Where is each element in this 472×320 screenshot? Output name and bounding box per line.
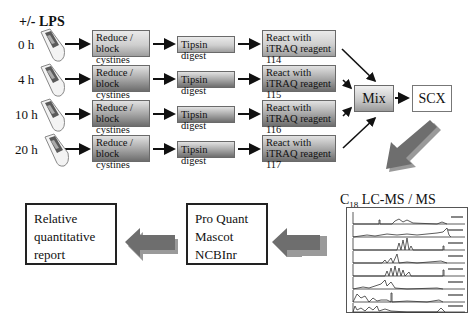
react-line-2: iTRAQ reagent 114	[266, 43, 332, 65]
digest-box: Tipsin digest	[177, 141, 235, 158]
reduce-line-1: Reduce /	[96, 102, 146, 113]
report-line-1: Relative	[34, 210, 108, 228]
row-arrows	[65, 44, 259, 149]
react-line-1: React with	[266, 102, 332, 113]
reduce-line-2: block cystines	[96, 113, 146, 135]
mix-box: Mix	[354, 85, 394, 112]
chromatogram-traces	[347, 208, 469, 314]
reduce-box: Reduce / block cystines	[92, 65, 150, 92]
itraq-react-box: React with iTRAQ reagent 117	[262, 135, 336, 162]
software-mascot: Mascot	[195, 228, 259, 246]
scx-box: SCX	[412, 85, 452, 112]
itraq-react-box: React with iTRAQ reagent 114	[262, 30, 336, 57]
software-ncbinr: NCBInr	[195, 246, 259, 264]
big-arrow-left-icon-2	[125, 228, 178, 261]
reduce-box: Reduce / block cystines	[92, 135, 150, 162]
react-line-2: iTRAQ reagent 117	[266, 148, 332, 170]
timepoint-label: 20 h	[15, 142, 45, 158]
react-line-1: React with	[266, 32, 332, 43]
sample-tube-icon	[38, 63, 68, 99]
react-line-1: React with	[266, 137, 332, 148]
sample-tube-icon	[38, 98, 68, 134]
lcms-suffix: LC-MS / MS	[358, 192, 435, 207]
trace-labels	[448, 216, 463, 307]
reduce-box: Reduce / block cystines	[92, 100, 150, 127]
lcms-prefix: C	[340, 192, 349, 207]
software-proquant: Pro Quant	[195, 210, 259, 228]
big-arrow-down-left-icon	[386, 120, 441, 172]
big-arrow-left-icon-1	[272, 228, 327, 257]
reduce-line-1: Reduce /	[96, 137, 146, 148]
digest-box: Tipsin digest	[177, 106, 235, 123]
software-box: Pro Quant Mascot NCBInr	[186, 203, 268, 265]
reduce-line-1: Reduce /	[96, 67, 146, 78]
itraq-react-box: React with iTRAQ reagent 115	[262, 65, 336, 92]
react-line-1: React with	[266, 67, 332, 78]
chromatogram-panel	[346, 207, 468, 313]
reduce-line-1: Reduce /	[96, 32, 146, 43]
reduce-box: Reduce / block cystines	[92, 30, 150, 57]
react-line-2: iTRAQ reagent 116	[266, 113, 332, 135]
reduce-line-2: block cystines	[96, 78, 146, 100]
digest-box: Tipsin digest	[177, 71, 235, 88]
report-box: Relative quantitative report	[25, 203, 117, 265]
sample-tube-icon	[38, 28, 68, 64]
report-line-3: report	[34, 246, 108, 264]
reduce-line-2: block cystines	[96, 148, 146, 170]
itraq-react-box: React with iTRAQ reagent 116	[262, 100, 336, 127]
report-line-2: quantitative	[34, 228, 108, 246]
reduce-line-2: block cystines	[96, 43, 146, 65]
react-line-2: iTRAQ reagent 115	[266, 78, 332, 100]
sample-tube-icon	[42, 133, 72, 169]
digest-box: Tipsin digest	[177, 36, 235, 53]
